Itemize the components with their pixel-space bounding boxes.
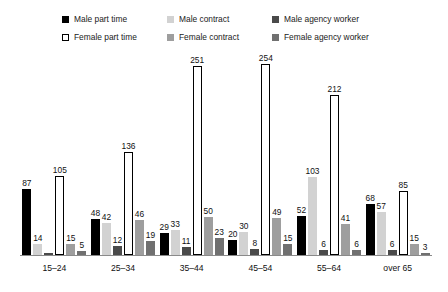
bar-slot-male-agency-worker-over-65: 6 xyxy=(388,54,397,255)
bar-male-part-time xyxy=(297,216,306,255)
plot-area: 8714105155484212136461929331125150232030… xyxy=(20,54,432,256)
bar-value-label: 103 xyxy=(306,167,320,176)
legend-item-male-agency-worker: Male agency worker xyxy=(272,15,392,24)
legend-swatch-female-agency-worker-icon xyxy=(272,34,279,41)
legend-item-female-agency-worker: Female agency worker xyxy=(272,33,392,42)
x-tick-35-44: 35–44 xyxy=(157,262,226,278)
bar-slot-male-contract-35-44: 33 xyxy=(171,54,180,255)
legend-label-female-agency-worker: Female agency worker xyxy=(284,33,369,42)
x-axis-tick-labels: 15–2425–3435–4445–5455–64over 65 xyxy=(20,262,432,278)
bar-value-label: 5 xyxy=(79,241,84,250)
bar-group-55-64: 521036212416 xyxy=(295,54,364,255)
bar-slot-female-part-time-55-64: 212 xyxy=(330,54,339,255)
bar-value-label: 42 xyxy=(102,213,111,222)
bar-group-15-24: 8714105155 xyxy=(20,54,89,255)
legend-swatch-female-part-time-icon xyxy=(62,34,69,41)
bar-slot-female-contract-55-64: 41 xyxy=(341,54,350,255)
bar-male-contract xyxy=(171,230,180,255)
bar-male-part-time xyxy=(22,189,31,255)
bar-male-contract xyxy=(377,212,386,255)
bar-male-contract xyxy=(308,177,317,255)
bar-slot-female-part-time-25-34: 136 xyxy=(124,54,133,255)
bar-value-label: 251 xyxy=(190,56,204,65)
bar-value-label: 57 xyxy=(377,202,386,211)
bar-slot-female-contract-45-54: 49 xyxy=(272,54,281,255)
bar-slot-male-part-time-55-64: 52 xyxy=(297,54,306,255)
bar-female-part-time xyxy=(193,66,202,255)
chart-legend: Male part time Male contract Male agency… xyxy=(62,10,392,46)
legend-swatch-male-agency-worker-icon xyxy=(272,16,279,23)
bar-value-label: 3 xyxy=(423,243,428,252)
bar-value-label: 20 xyxy=(228,230,237,239)
bar-value-label: 23 xyxy=(215,228,224,237)
bar-slot-male-contract-25-34: 42 xyxy=(102,54,111,255)
bar-group-over-65: 6857685153 xyxy=(363,54,432,255)
bar-value-label: 33 xyxy=(171,220,180,229)
bar-value-label: 68 xyxy=(366,194,375,203)
bar-value-label: 48 xyxy=(91,209,100,218)
bar-group-45-54: 203082544915 xyxy=(226,54,295,255)
bar-slot-male-part-time-over-65: 68 xyxy=(366,54,375,255)
bar-slot-female-contract-15-24: 15 xyxy=(66,54,75,255)
bar-value-label: 12 xyxy=(113,236,122,245)
bar-female-contract xyxy=(204,217,213,255)
bar-slot-male-part-time-45-54: 20 xyxy=(228,54,237,255)
bar-value-label: 15 xyxy=(66,234,75,243)
bar-female-contract xyxy=(272,218,281,255)
bar-female-contract xyxy=(410,244,419,255)
grouped-bar-chart: Male part time Male contract Male agency… xyxy=(0,0,448,292)
bar-slot-male-part-time-15-24: 87 xyxy=(22,54,31,255)
bar-slot-female-agency-worker-35-44: 23 xyxy=(215,54,224,255)
legend-item-female-part-time: Female part time xyxy=(62,33,167,42)
bar-female-agency-worker xyxy=(283,244,292,255)
bar-value-label: 52 xyxy=(297,206,306,215)
bar-value-label: 29 xyxy=(160,223,169,232)
bar-slot-female-agency-worker-25-34: 19 xyxy=(146,54,155,255)
bar-female-agency-worker xyxy=(146,241,155,255)
legend-swatch-female-contract-icon xyxy=(167,34,174,41)
bar-female-agency-worker xyxy=(215,238,224,255)
bar-slot-male-part-time-35-44: 29 xyxy=(160,54,169,255)
bar-value-label: 49 xyxy=(272,208,281,217)
bar-value-label: 254 xyxy=(259,54,273,63)
bar-female-part-time xyxy=(330,95,339,255)
bar-group-25-34: 4842121364619 xyxy=(89,54,158,255)
bar-male-contract xyxy=(33,244,42,255)
bar-male-contract xyxy=(239,232,248,255)
bar-value-label: 41 xyxy=(341,214,350,223)
bar-slot-male-contract-over-65: 57 xyxy=(377,54,386,255)
legend-swatch-male-contract-icon xyxy=(167,16,174,23)
bar-female-part-time xyxy=(399,191,408,255)
legend-label-female-part-time: Female part time xyxy=(74,33,137,42)
bar-value-label: 85 xyxy=(399,181,408,190)
bar-female-part-time xyxy=(124,152,133,255)
bar-value-label: 30 xyxy=(239,222,248,231)
bar-female-part-time xyxy=(261,64,270,255)
bar-slot-female-agency-worker-15-24: 5 xyxy=(77,54,86,255)
bar-slot-male-contract-15-24: 14 xyxy=(33,54,42,255)
legend-label-male-part-time: Male part time xyxy=(74,15,127,24)
bar-slot-female-part-time-over-65: 85 xyxy=(399,54,408,255)
bar-slot-male-agency-worker-15-24 xyxy=(44,54,53,255)
bar-slot-male-part-time-25-34: 48 xyxy=(91,54,100,255)
bar-female-contract xyxy=(66,244,75,255)
bar-slot-male-agency-worker-45-54: 8 xyxy=(250,54,259,255)
x-tick-over-65: over 65 xyxy=(363,262,432,278)
bar-male-part-time xyxy=(91,219,100,255)
x-axis-baseline xyxy=(20,255,432,256)
bar-slot-male-agency-worker-35-44: 11 xyxy=(182,54,191,255)
legend-item-male-part-time: Male part time xyxy=(62,15,167,24)
bar-value-label: 15 xyxy=(410,234,419,243)
bar-female-part-time xyxy=(55,176,64,255)
x-tick-15-24: 15–24 xyxy=(20,262,89,278)
bar-value-label: 8 xyxy=(253,239,258,248)
bar-slot-female-agency-worker-55-64: 6 xyxy=(352,54,361,255)
bar-slot-female-contract-35-44: 50 xyxy=(204,54,213,255)
bar-female-contract xyxy=(341,224,350,255)
x-tick-45-54: 45–54 xyxy=(226,262,295,278)
bar-male-agency-worker xyxy=(113,246,122,255)
bar-slot-male-agency-worker-25-34: 12 xyxy=(113,54,122,255)
legend-swatch-male-part-time-icon xyxy=(62,16,69,23)
bar-value-label: 6 xyxy=(321,240,326,249)
bar-value-label: 105 xyxy=(53,166,67,175)
